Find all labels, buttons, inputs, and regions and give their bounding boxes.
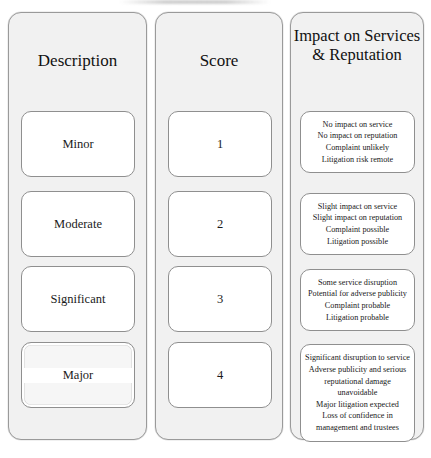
score-cell-2[interactable]: 2 [168,191,272,257]
score-cell-value: 4 [169,368,271,383]
impact-line: Significant disruption to service [304,352,411,364]
column-header-impact-line2: & Reputation [312,45,401,64]
impact-cell-major[interactable]: Significant disruption to service Advers… [300,344,415,442]
score-cell-1[interactable]: 1 [168,111,272,177]
score-cell-value: 2 [169,217,271,232]
score-cell-value: 1 [169,137,271,152]
description-cell-label: Moderate [22,217,134,232]
impact-line: Loss of confidence in management and tru… [304,410,411,433]
column-header-score: Score [156,51,282,71]
column-header-impact: Impact on Services & Reputation [291,27,423,65]
column-header-description: Description [9,51,146,71]
description-cell-moderate[interactable]: Moderate [21,191,135,257]
impact-line: Slight impact on reputation [304,212,411,224]
impact-cell-minor[interactable]: No impact on service No impact on reputa… [300,111,415,173]
impact-line: Litigation possible [304,236,411,248]
description-cell-label: Major [22,368,134,383]
impact-line: No impact on reputation [304,130,411,142]
impact-cell-lines: Significant disruption to service Advers… [301,352,414,433]
impact-line: Potential for adverse publicity [304,288,411,300]
impact-cell-moderate[interactable]: Slight impact on service Slight impact o… [300,193,415,255]
description-cell-label: Significant [22,292,134,307]
column-header-impact-line1: Impact on Services [294,26,420,45]
impact-cell-lines: No impact on service No impact on reputa… [301,119,414,166]
impact-line: Some service disruption [304,277,411,289]
column-impact: Impact on Services & Reputation No impac… [290,12,424,440]
impact-cell-lines: Some service disruption Potential for ad… [301,277,414,324]
impact-line: No impact on service [304,119,411,131]
score-cell-4[interactable]: 4 [168,342,272,408]
risk-impact-matrix: Description Minor Moderate Significant M… [0,0,431,458]
column-score: Score 1 2 3 4 [155,12,283,440]
description-cell-minor[interactable]: Minor [21,111,135,177]
score-cell-value: 3 [169,292,271,307]
impact-line: Complaint possible [304,224,411,236]
scan-artifact [120,0,270,4]
description-cell-label: Minor [22,137,134,152]
impact-line: Adverse publicity and serious reputation… [304,364,411,399]
impact-line: Complaint probable [304,300,411,312]
impact-line: Slight impact on service [304,201,411,213]
column-description: Description Minor Moderate Significant M… [8,12,147,440]
impact-line: Litigation probable [304,312,411,324]
impact-line: Major litigation expected [304,399,411,411]
impact-cell-lines: Slight impact on service Slight impact o… [301,201,414,248]
impact-cell-significant[interactable]: Some service disruption Potential for ad… [300,269,415,331]
impact-line: Complaint unlikely [304,142,411,154]
impact-line: Litigation risk remote [304,154,411,166]
score-cell-3[interactable]: 3 [168,266,272,332]
description-cell-significant[interactable]: Significant [21,266,135,332]
description-cell-major[interactable]: Major [21,342,135,408]
